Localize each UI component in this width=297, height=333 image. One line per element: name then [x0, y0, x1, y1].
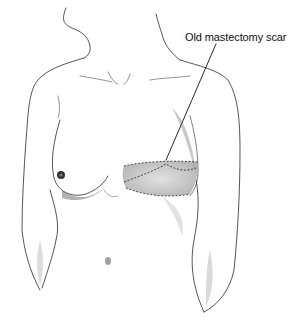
neck-left-outline	[64, 8, 91, 58]
left-arm-inner	[42, 190, 58, 288]
illustration: Old mastectomy scar	[0, 0, 297, 333]
left-breast-outline	[52, 120, 108, 195]
callout-label-scar: Old mastectomy scar	[185, 31, 286, 43]
callout-leader-line	[166, 44, 216, 160]
torso-drawing	[0, 0, 297, 333]
navel	[105, 257, 111, 265]
mastectomy-scar	[123, 161, 198, 196]
right-arm-inner	[192, 180, 204, 312]
shading	[37, 108, 213, 306]
neck-right-outline	[156, 14, 180, 60]
